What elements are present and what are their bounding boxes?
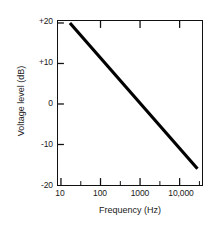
y-axis-title: Voltage level (dB): [16, 31, 26, 171]
x-axis-top-ticks: [101, 21, 180, 28]
y-tick-label: 0: [48, 99, 53, 108]
x-axis-tick-labels: 10 100 1000 10,000: [0, 189, 216, 201]
chart-figure: +20 +10 0 -10 -20: [0, 0, 216, 227]
data-line-voltage-level: [70, 23, 198, 169]
x-tick-label: 10,000: [168, 189, 193, 198]
plot-area: [57, 20, 203, 186]
y-tick-label: +20: [39, 17, 53, 26]
y-axis-ticks: [58, 23, 64, 145]
x-tick-label: 1000: [131, 189, 150, 198]
x-axis-title: Frequency (Hz): [57, 205, 203, 215]
y-tick-label: -10: [41, 140, 53, 149]
plot-canvas: [58, 21, 202, 185]
y-tick-label: +10: [39, 58, 53, 67]
x-tick-label: 10: [55, 189, 64, 198]
x-tick-label: 100: [93, 189, 107, 198]
